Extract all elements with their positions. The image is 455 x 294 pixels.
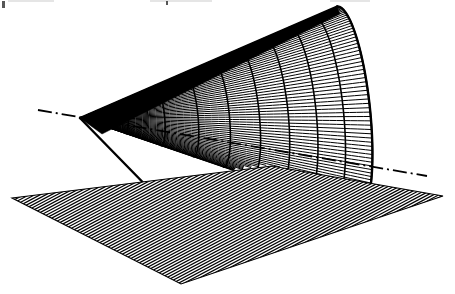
figure-canvas: Elliptic cone ruled surface intersecting… [0, 0, 455, 294]
cone-plane-diagram: Elliptic cone ruled surface intersecting… [0, 0, 455, 294]
